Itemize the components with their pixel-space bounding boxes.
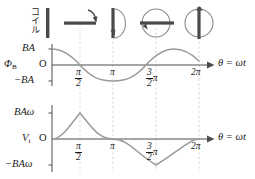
three-half-fraction: 3 2 [146,68,153,88]
volt-symbol-sub: i [28,137,30,145]
three-half-pi-symbol: π [153,73,158,83]
volt-ytick-label-min: −BAω [5,159,32,170]
coil-diagram-pi [110,8,125,38]
flux-x-axis-arrow [207,62,215,69]
flux-symbol-sub: B [12,63,17,71]
chart-magnetic-flux [49,44,215,86]
volt-x-axis-arrow [207,136,215,143]
flux-y-axis-label: ΦB [4,59,17,71]
half-pi-denominator: 2 [75,79,82,89]
coil-diagram-three-half-pi [140,9,174,37]
volt-ytick-label-max: BAω [14,107,34,118]
volt-origin-label: O [39,133,47,144]
flux-ytick-label-max: BA [22,43,35,54]
flux-xtick-label-two-pi: 2π [191,68,201,78]
volt-y-axis-label: Vi [22,133,30,145]
flux-x-axis-title: θ = ωt [218,58,246,69]
flux-ytick-label-min: −BA [14,75,34,86]
flux-xtick-label-three-half-pi: 3 2 π [146,68,158,88]
volt-xtick-label-three-half-pi: 3 2 π [146,142,158,162]
volt-xtick-label-half-pi: π 2 [75,142,82,162]
coil-diagram-half-pi [64,10,97,25]
volt-x-axis-title: θ = ωt [218,132,246,143]
chart-induced-voltage [49,105,215,172]
volt-half-pi-denominator: 2 [75,153,82,163]
volt-three-half-fraction: 3 2 [146,142,153,162]
flux-xtick-label-pi: π [110,68,115,78]
volt-three-half-denominator: 2 [146,153,153,163]
volt-xtick-label-two-pi: 2π [191,142,201,152]
volt-three-half-pi-symbol: π [153,147,158,157]
flux-symbol: Φ [4,58,12,69]
coil-diagram-0 [46,8,49,38]
coil-diagram-two-pi [185,6,213,39]
flux-xtick-label-half-pi: π 2 [75,68,82,88]
volt-xtick-label-pi: π [110,142,115,152]
coil-diagram-row [46,6,213,39]
rotating-coil-emf-figure: コイル BA ΦB O −BA π 2 π 3 2 π 2π θ = ωt BA… [0,0,255,179]
coil-label-japanese: コイル [30,7,39,34]
flux-origin-label: O [39,59,47,70]
three-half-denominator: 2 [146,79,153,89]
